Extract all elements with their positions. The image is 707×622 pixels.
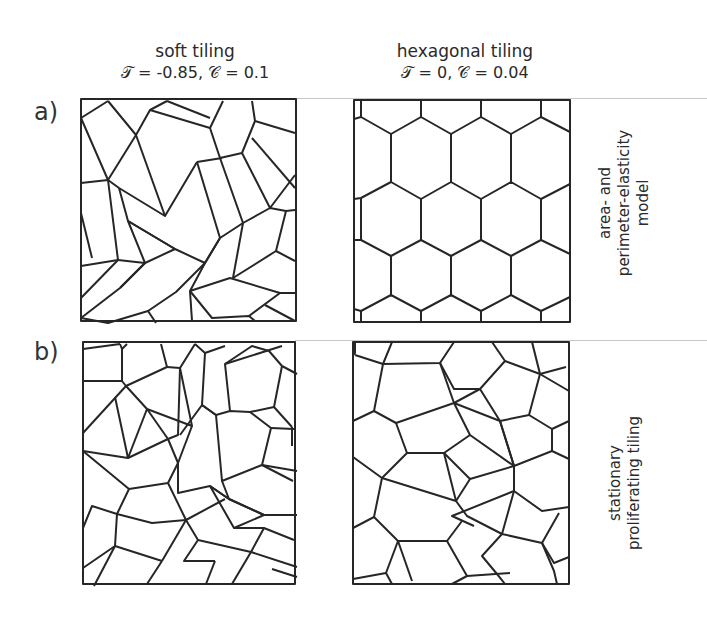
row-label-a: a) xyxy=(34,98,58,126)
voronoi-tiling-graphic xyxy=(82,341,298,587)
row-a-side-label: area- and perimeter-elasticity model xyxy=(596,103,653,303)
side-label-line: proliferating tiling xyxy=(625,393,644,573)
hexagonal-tiling-graphic xyxy=(353,99,573,325)
column-title-text: soft tiling xyxy=(90,40,300,62)
column-title-soft-tiling: soft tiling 𝒯 = -0.85, 𝒞 = 0.1 xyxy=(90,40,300,84)
column-title-hexagonal-tiling: hexagonal tiling 𝒯 = 0, 𝒞 = 0.04 xyxy=(350,40,580,84)
voronoi-tiling-graphic xyxy=(352,341,572,587)
column-params: 𝒯 = -0.85, 𝒞 = 0.1 xyxy=(90,62,300,84)
panel-a-soft-tiling xyxy=(80,98,298,324)
row-label-b: b) xyxy=(34,338,59,366)
side-label-line: stationary xyxy=(606,393,625,573)
side-label-line: model xyxy=(634,103,653,303)
voronoi-tiling-graphic xyxy=(80,98,298,324)
panel-b-soft-tiling xyxy=(82,341,298,587)
column-params: 𝒯 = 0, 𝒞 = 0.04 xyxy=(350,62,580,84)
side-label-line: perimeter-elasticity xyxy=(615,103,634,303)
column-title-text: hexagonal tiling xyxy=(350,40,580,62)
panel-b-hexagonal-tiling xyxy=(352,341,572,587)
side-label-line: area- and xyxy=(596,103,615,303)
row-b-side-label: stationary proliferating tiling xyxy=(606,393,644,573)
panel-a-hexagonal-tiling xyxy=(353,99,573,325)
